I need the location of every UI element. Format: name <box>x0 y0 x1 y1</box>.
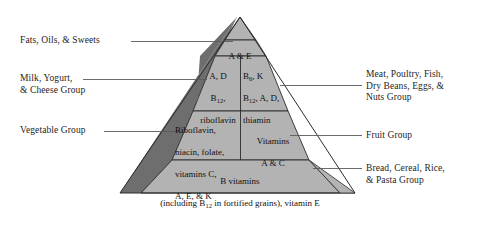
meat-b12-subscript: 12 <box>249 97 256 104</box>
tier-text-base: B vitamins (including B12 in fortified g… <box>150 165 330 209</box>
label-milk-yogurt-cheese: Milk, Yogurt, & Cheese Group <box>20 73 130 96</box>
fruit-line-1: Vitamins <box>257 136 289 146</box>
milk-line-1: A, D <box>209 71 227 81</box>
label-fruit-group: Fruit Group <box>366 130 466 142</box>
meat-b6-subscript: 6 <box>249 75 252 82</box>
milk-b12-subscript: 12 <box>217 97 224 104</box>
meat-line-3: thiamin <box>243 115 271 125</box>
meat-line-1: B6, K <box>243 71 263 81</box>
tier-text-fruit: Vitamins A & C <box>244 125 302 169</box>
vegetable-line-1: Riboflavin, <box>175 125 216 135</box>
label-fats-oils-sweets: Fats, Oils, & Sweets <box>20 35 140 47</box>
milk-line-2: B12, <box>211 93 226 103</box>
base-b12-subscript: 12 <box>205 202 212 209</box>
tier-text-meat-poultry-fish: B6, K B12, A, D, thiamin <box>243 60 293 126</box>
tier-text-apex: A & E <box>205 40 275 62</box>
label-meat-poultry-fish: Meat, Poultry, Fish, Dry Beans, Eggs, & … <box>366 69 478 104</box>
label-vegetable-group: Vegetable Group <box>20 125 115 137</box>
label-bread-cereal-rice-pasta: Bread, Cereal, Rice, & Pasta Group <box>366 163 478 186</box>
vegetable-line-2: niacin, folate, <box>175 147 224 157</box>
base-line-2: (including B12 in fortified grains), vit… <box>160 198 320 208</box>
meat-line-2: B12, A, D, <box>243 93 279 103</box>
base-line-1: B vitamins <box>220 176 259 186</box>
